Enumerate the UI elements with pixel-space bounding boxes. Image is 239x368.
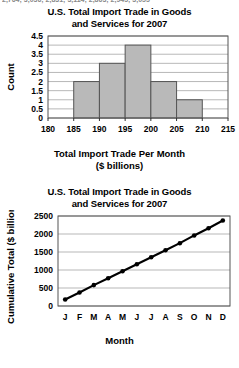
xtick-label-month: J: [134, 312, 139, 322]
ogive-ylabel: Cumulative Total ($ billions): [5, 210, 16, 324]
ytick-label: 1500: [34, 247, 53, 257]
ogive-title-line1: U.S. Total Import Trade in Goods: [48, 186, 192, 197]
data-point-marker: [178, 241, 183, 246]
histogram-bar: [74, 82, 100, 118]
histogram-xlabel-line2: ($ billions): [96, 160, 144, 171]
ytick-label: 500: [39, 283, 53, 293]
ogive-xlabel: Month: [105, 335, 134, 346]
histogram-bar: [151, 82, 177, 118]
ytick-label: 4: [38, 40, 43, 50]
data-point-marker: [63, 297, 68, 302]
histogram-svg: 00.511.522.533.544.518018519019520020521…: [0, 30, 239, 148]
xtick-label: 185: [67, 124, 81, 134]
xtick-label-month: A: [105, 312, 111, 322]
ogive-title: U.S. Total Import Trade in Goods and Ser…: [0, 186, 239, 210]
data-point-marker: [163, 248, 168, 253]
ytick-label: 1000: [34, 265, 53, 275]
histogram-xaxis-caption: Total Import Trade Per Month ($ billions…: [0, 148, 239, 172]
histogram-plot-area: 00.511.522.533.544.518018519019520020521…: [0, 30, 239, 148]
xtick-label: 215: [221, 124, 235, 134]
histogram-title-line2: and Services for 2007: [8, 18, 231, 30]
ytick-label: 1: [38, 95, 43, 105]
ytick-label: 2000: [34, 229, 53, 239]
data-point-marker: [77, 290, 82, 295]
ogive-figure: U.S. Total Import Trade in Goods and Ser…: [0, 186, 239, 368]
xtick-label: 200: [144, 124, 158, 134]
histogram-bar: [125, 45, 151, 118]
histogram-title: U.S. Total Import Trade in Goods and Ser…: [0, 6, 239, 30]
xtick-label-month: M: [90, 312, 97, 322]
top-cut-text-value: 2,764; 3,036; 2,831; 3,114; 2,863; 2,945…: [2, 0, 202, 3]
xtick-label-month: S: [177, 312, 183, 322]
data-point-marker: [135, 262, 140, 267]
histogram-xlabel-line1: Total Import Trade Per Month: [54, 148, 185, 159]
ogive-svg: 05001000150020002500JFMAMJJASONDCumulati…: [0, 210, 239, 335]
xtick-label-month: J: [149, 312, 154, 322]
ytick-label: 0: [38, 113, 43, 123]
xtick-label-month: O: [191, 312, 198, 322]
histogram-ylabel: Count: [5, 62, 16, 90]
xtick-label-month: J: [63, 312, 68, 322]
xtick-label-month: A: [162, 312, 168, 322]
xtick-label: 195: [118, 124, 132, 134]
data-point-marker: [92, 283, 97, 288]
ytick-label: 3: [38, 58, 43, 68]
xtick-label-month: N: [205, 312, 211, 322]
xtick-label-month: D: [220, 312, 226, 322]
xtick-label-month: M: [119, 312, 126, 322]
ytick-label: 0.5: [31, 104, 43, 114]
ytick-label: 2500: [34, 211, 53, 221]
ogive-title-line2: and Services for 2007: [8, 198, 231, 210]
xtick-label: 180: [41, 124, 55, 134]
ytick-label: 2.5: [31, 67, 43, 77]
data-point-marker: [206, 226, 211, 231]
ytick-label: 0: [48, 301, 53, 311]
ytick-label: 2: [38, 77, 43, 87]
xtick-label: 190: [92, 124, 106, 134]
data-point-marker: [106, 276, 111, 281]
xtick-label-month: F: [77, 312, 82, 322]
ogive-plot-area: 05001000150020002500JFMAMJJASONDCumulati…: [0, 210, 239, 335]
histogram-figure: U.S. Total Import Trade in Goods and Ser…: [0, 6, 239, 184]
xtick-label: 205: [169, 124, 183, 134]
data-point-marker: [120, 269, 125, 274]
ytick-label: 1.5: [31, 86, 43, 96]
histogram-title-line1: U.S. Total Import Trade in Goods: [48, 6, 192, 17]
ogive-xaxis-caption: Month: [0, 335, 239, 347]
histogram-bar: [99, 63, 125, 118]
data-point-marker: [221, 218, 226, 223]
histogram-bar: [177, 100, 203, 118]
data-point-marker: [192, 233, 197, 238]
ytick-label: 4.5: [31, 31, 43, 41]
ytick-label: 3.5: [31, 49, 43, 59]
data-point-marker: [149, 255, 154, 260]
xtick-label: 210: [195, 124, 209, 134]
